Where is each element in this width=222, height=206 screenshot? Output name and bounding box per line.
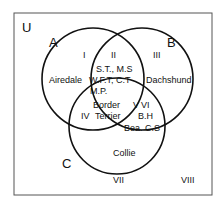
set-label-b: B (167, 35, 176, 50)
element-bc-line2: Bea. C.S (124, 123, 160, 133)
region-label-viii: VIII (181, 175, 195, 185)
region-label-i: I (83, 50, 86, 60)
element-airedale: Airedale (49, 75, 82, 85)
set-label-a: A (49, 35, 58, 50)
set-label-c: C (62, 156, 71, 171)
region-label-vii: VII (113, 175, 124, 185)
element-abc-line2: Terrier (95, 111, 121, 121)
region-label-vi: VI (141, 100, 150, 110)
element-dachshund: Dachshund (146, 75, 192, 85)
region-label-iv: IV (81, 111, 90, 121)
element-ab-line2: W.F.T, C.T (89, 75, 131, 85)
universe-label: U (22, 20, 31, 35)
element-collie: Collie (113, 148, 136, 158)
venn-diagram: U A B C I II III IV V VI VII VIII Aireda… (0, 0, 222, 206)
element-ab-line3: M.P. (90, 86, 107, 96)
element-abc-line1: Border (93, 100, 120, 110)
region-label-v: V (133, 100, 139, 110)
element-ab-line1: S.T., M.S (96, 64, 133, 74)
element-bc-line1: B.H (138, 111, 153, 121)
region-label-iii: III (153, 50, 161, 60)
region-label-ii: II (111, 50, 116, 60)
